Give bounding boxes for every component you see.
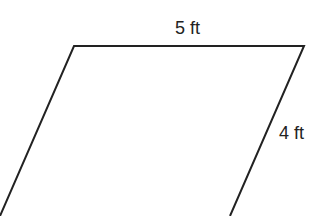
top-side-label: 5 ft: [175, 19, 200, 37]
parallelogram-outline: [0, 46, 304, 216]
parallelogram-figure: [0, 0, 314, 216]
right-side-label: 4 ft: [279, 124, 304, 142]
